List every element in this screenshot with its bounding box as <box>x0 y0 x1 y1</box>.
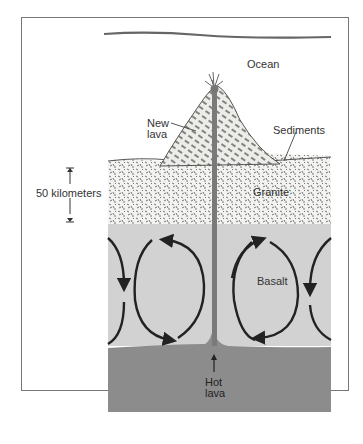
scale-label: 50 kilometers <box>36 187 101 199</box>
ocean-surface <box>104 33 331 38</box>
granite-label: Granite <box>253 186 289 198</box>
basalt-label: Basalt <box>257 275 288 287</box>
magma-conduit <box>212 90 217 346</box>
volcano-cross-section <box>0 0 363 444</box>
volcano-cone <box>160 86 280 166</box>
sediments-label: Sediments <box>273 124 325 136</box>
new-lava-label-line2: lava <box>147 128 167 140</box>
hot-lava-label-line2: lava <box>205 387 225 399</box>
ocean-label: Ocean <box>247 58 279 70</box>
